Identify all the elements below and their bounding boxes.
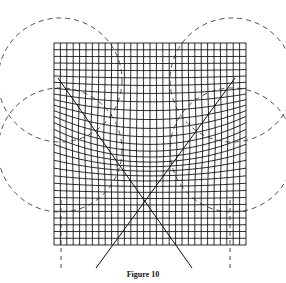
mesh-grid [54, 43, 246, 245]
deformed-grid-figure [0, 0, 286, 268]
figure-caption: Figure 10 [0, 270, 286, 279]
